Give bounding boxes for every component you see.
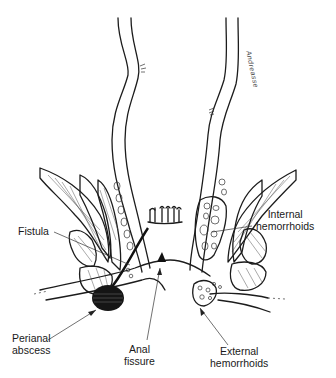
label-internal-hemorrhoids: Internal hemorrhoids	[256, 208, 314, 232]
perianal-skin	[34, 260, 285, 312]
label-external-hemorrhoids-line1: External	[210, 345, 268, 357]
rectal-wall-right	[190, 18, 239, 272]
label-external-hemorrhoids: External hemorrhoids	[210, 345, 268, 369]
anal-columns	[148, 207, 182, 224]
label-anal-fissure-line2: fissure	[124, 355, 155, 367]
label-internal-hemorrhoids-line2: hemorrhoids	[256, 220, 314, 232]
label-anal-fissure-line1: Anal	[124, 343, 155, 355]
anorectal-diagram: Andreasse Fistula Internal hemorrhoids P…	[0, 0, 336, 378]
label-external-hemorrhoids-line2: hemorrhoids	[210, 357, 268, 369]
label-perianal-abscess-line2: abscess	[12, 344, 51, 356]
anal-fissure-mark	[157, 252, 166, 262]
label-perianal-abscess-line1: Perianal	[12, 332, 51, 344]
perianal-abscess	[92, 285, 124, 311]
label-anal-fissure: Anal fissure	[124, 343, 155, 367]
right-muscles	[193, 170, 296, 306]
label-perianal-abscess: Perianal abscess	[12, 332, 51, 356]
label-fistula: Fistula	[18, 225, 49, 237]
label-internal-hemorrhoids-line1: Internal	[256, 208, 314, 220]
anatomy-drawing	[0, 0, 336, 378]
